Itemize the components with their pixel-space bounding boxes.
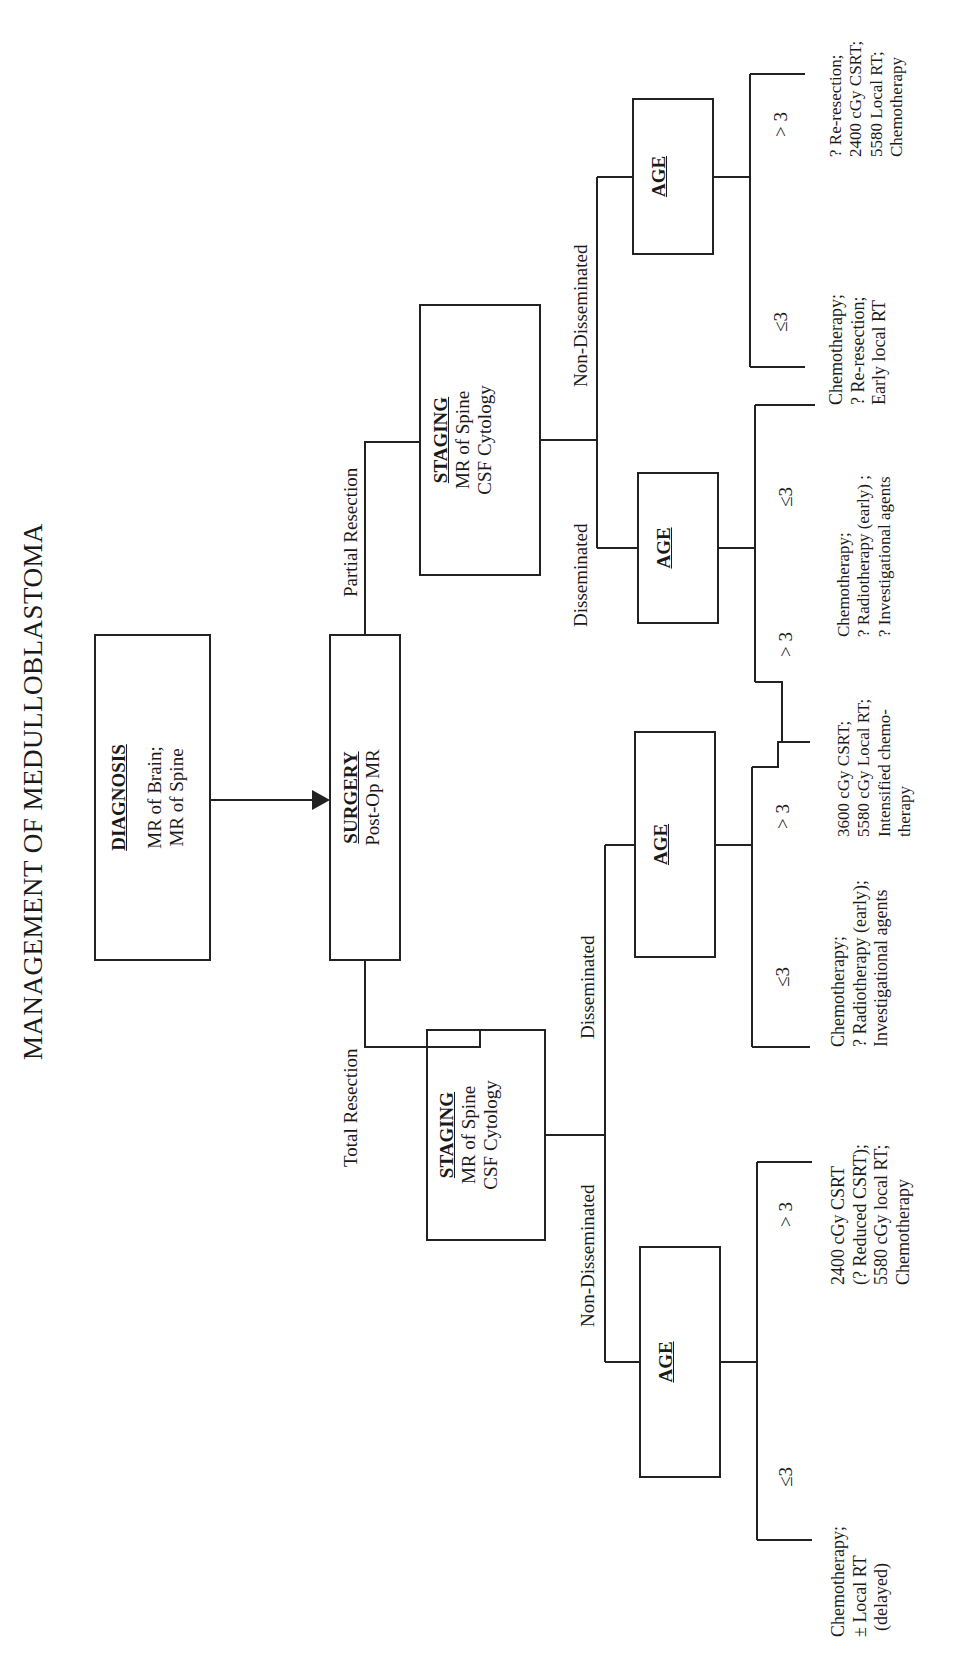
- age-total-nondissem-box: [640, 1247, 720, 1477]
- surgery-node: SURGERY Post-Op MR: [340, 635, 384, 960]
- leaf-line: 3600 cGy CSRT;: [834, 699, 854, 837]
- age-partial-dissem-box: [638, 473, 718, 623]
- leaf-line: Early local RT: [869, 294, 891, 405]
- edge-label-partial-disseminated: Disseminated: [570, 524, 592, 627]
- diagnosis-node: DIAGNOSIS MR of Brain; MR of Spine: [108, 635, 188, 960]
- staging-total-line-2: CSF Cytology: [480, 1030, 502, 1240]
- leaf-line: 2400 cGy CSRT: [828, 1144, 850, 1285]
- edge-pd-gt3: [755, 682, 782, 742]
- age-total-nondissem-heading: AGE: [655, 1247, 677, 1477]
- branch-label-pnd-gt3: > 3: [770, 112, 792, 137]
- edge-label-partial-resection: Partial Resection: [340, 468, 362, 597]
- branch-label-tnd-le3: ≤3: [775, 1467, 797, 1487]
- diagnosis-line-1: MR of Brain;: [144, 635, 166, 960]
- leaf-line: ? Radiotherapy (early) ;: [854, 475, 874, 637]
- arrow-head-icon: [312, 790, 330, 810]
- staging-partial-line-1: MR of Spine: [452, 305, 474, 575]
- leaf-line: (? Reduced CSRT);: [850, 1144, 872, 1285]
- surgery-heading: SURGERY: [340, 635, 362, 960]
- leaf-partial-dissem-le3: Chemotherapy; ? Radiotherapy (early) ; ?…: [834, 475, 895, 637]
- leaf-line: therapy: [895, 699, 915, 837]
- leaf-line: ? Investigational agents: [875, 475, 895, 637]
- age-partial-nondissem-box: [633, 99, 713, 254]
- leaf-line: 2400 cGy CSRT;: [846, 41, 866, 157]
- branch-label-td-gt3: > 3: [772, 804, 794, 829]
- age-partial-nondissem-heading: AGE: [648, 99, 670, 254]
- flowchart-canvas: MANAGEMENT OF MEDULLOBLASTOMA DIAGNOSIS …: [0, 0, 970, 1667]
- branch-label-tnd-gt3: > 3: [775, 1202, 797, 1227]
- leaf-line: 5580 cGy local RT;: [871, 1144, 893, 1285]
- leaf-line: Investigational agents: [871, 880, 893, 1047]
- staging-partial-node: STAGING MR of Spine CSF Cytology: [430, 305, 496, 575]
- leaf-line: ? Radiotherapy (early);: [850, 880, 872, 1047]
- leaf-line: ? Re-resection;: [848, 294, 870, 405]
- leaf-line: 5580 Local RT;: [867, 41, 887, 157]
- edge-label-partial-non-disseminated: Non-Disseminated: [570, 245, 592, 387]
- leaf-line: Chemotherapy;: [828, 1526, 850, 1637]
- leaf-partial-nondissem-gt3: ? Re-resection; 2400 cGy CSRT; 5580 Loca…: [826, 41, 908, 157]
- staging-partial-heading: STAGING: [430, 305, 452, 575]
- leaf-dissem-gt3-shared: 3600 cGy CSRT; 5580 cGy Local RT; Intens…: [834, 699, 916, 837]
- leaf-line: Chemotherapy;: [826, 294, 848, 405]
- edge-td-gt3: [752, 742, 810, 767]
- leaf-line: Intensified chemo-: [875, 699, 895, 837]
- edge-label-total-disseminated: Disseminated: [577, 936, 599, 1039]
- page-title: MANAGEMENT OF MEDULLOBLASTOMA: [18, 523, 49, 1060]
- edge-partial-resection: [365, 442, 420, 635]
- staging-total-heading: STAGING: [436, 1030, 458, 1240]
- leaf-total-nondissem-gt3: 2400 cGy CSRT (? Reduced CSRT); 5580 cGy…: [828, 1144, 914, 1285]
- diagnosis-heading: DIAGNOSIS: [108, 635, 130, 960]
- branch-label-td-le3: ≤3: [772, 967, 794, 987]
- branch-label-pnd-le3: ≤3: [770, 312, 792, 332]
- staging-total-node: STAGING MR of Spine CSF Cytology: [436, 1030, 502, 1240]
- staging-partial-line-2: CSF Cytology: [474, 305, 496, 575]
- leaf-line: ? Re-resection;: [826, 41, 846, 157]
- leaf-line: Chemotherapy: [893, 1144, 915, 1285]
- age-total-dissem-heading: AGE: [650, 732, 672, 957]
- diagnosis-line-2: MR of Spine: [166, 635, 188, 960]
- surgery-line-1: Post-Op MR: [362, 635, 384, 960]
- edge-label-total-resection: Total Resection: [340, 1049, 362, 1167]
- leaf-partial-nondissem-le3: Chemotherapy; ? Re-resection; Early loca…: [826, 294, 891, 405]
- leaf-line: Chemotherapy;: [828, 880, 850, 1047]
- leaf-line: Chemotherapy: [887, 41, 907, 157]
- leaf-total-dissem-le3: Chemotherapy; ? Radiotherapy (early); In…: [828, 880, 893, 1047]
- edge-label-total-non-disseminated: Non-Disseminated: [577, 1185, 599, 1327]
- leaf-line: 5580 cGy Local RT;: [854, 699, 874, 837]
- age-total-dissem-box: [635, 732, 715, 957]
- leaf-line: Chemotherapy;: [834, 475, 854, 637]
- leaf-total-nondissem-le3: Chemotherapy; ± Local RT (delayed): [828, 1526, 893, 1637]
- age-partial-dissem-heading: AGE: [653, 473, 675, 623]
- leaf-line: (delayed): [871, 1526, 893, 1637]
- branch-label-pd-le3: ≤3: [775, 487, 797, 507]
- leaf-line: ± Local RT: [850, 1526, 872, 1637]
- staging-total-line-1: MR of Spine: [458, 1030, 480, 1240]
- branch-label-pd-gt3: > 3: [775, 632, 797, 657]
